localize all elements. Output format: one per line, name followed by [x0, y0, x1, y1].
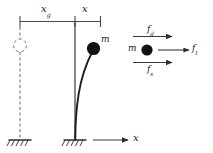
spring-force-label: fs	[147, 65, 153, 74]
x-axis-label: x	[133, 133, 139, 143]
figure-vector-layer	[0, 0, 213, 153]
undeformed-base-support	[7, 140, 32, 146]
free-body-mass-label: m	[128, 44, 137, 53]
lumped-mass-marker	[87, 42, 100, 55]
figure-canvas: xg x m x m fd fI fs	[0, 0, 213, 153]
free-body-diagram-group	[133, 37, 189, 63]
dimension-line-group	[20, 16, 101, 27]
relative-displacement-label: x	[82, 4, 88, 14]
structure-mass-label: m	[101, 35, 110, 44]
free-body-mass-marker	[141, 44, 152, 55]
damping-force-subscript: d	[150, 31, 154, 37]
inertia-force-label: fI	[192, 44, 198, 53]
ground-displacement-label: xg	[41, 4, 51, 14]
deformed-base-support	[62, 140, 87, 146]
ground-displacement-subscript: g	[47, 11, 51, 18]
deformed-column-group	[75, 22, 92, 141]
damping-force-label: fd	[147, 25, 154, 34]
undeformed-column-group	[14, 27, 27, 140]
inertia-force-subscript: I	[195, 50, 197, 56]
spring-force-subscript: s	[150, 71, 153, 77]
